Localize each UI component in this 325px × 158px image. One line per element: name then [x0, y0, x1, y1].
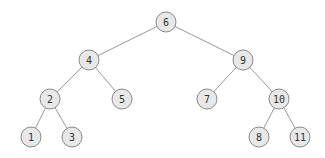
tree-node-10: 10: [269, 89, 289, 109]
edge-6-4: [89, 22, 166, 60]
tree-node-7: 7: [197, 89, 217, 109]
tree-node-9: 9: [233, 50, 253, 70]
node-label: 9: [240, 55, 246, 66]
node-label: 3: [69, 132, 75, 143]
binary-tree-diagram: 6492571013811: [0, 0, 325, 158]
nodes-layer: 6492571013811: [21, 12, 310, 147]
node-label: 4: [86, 55, 92, 66]
tree-node-8: 8: [249, 127, 269, 147]
tree-node-5: 5: [112, 89, 132, 109]
node-label: 7: [204, 94, 210, 105]
node-label: 10: [273, 94, 285, 105]
node-label: 5: [119, 94, 125, 105]
tree-node-3: 3: [62, 127, 82, 147]
node-label: 11: [294, 132, 306, 143]
node-label: 6: [163, 17, 169, 28]
node-label: 8: [256, 132, 262, 143]
node-label: 2: [47, 94, 53, 105]
tree-node-4: 4: [79, 50, 99, 70]
tree-node-11: 11: [290, 127, 310, 147]
edges-layer: [31, 22, 300, 137]
tree-node-6: 6: [156, 12, 176, 32]
edge-6-9: [166, 22, 243, 60]
node-label: 1: [28, 132, 34, 143]
tree-node-2: 2: [40, 89, 60, 109]
tree-node-1: 1: [21, 127, 41, 147]
